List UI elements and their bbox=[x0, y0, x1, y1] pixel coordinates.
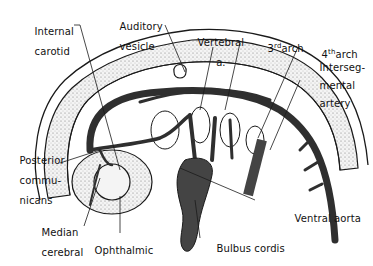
pharyngeal-pouches bbox=[151, 107, 264, 154]
label-line: Interseg- bbox=[320, 62, 366, 73]
label-line: Vertebral bbox=[198, 37, 245, 48]
label-line: Ventral aorta bbox=[295, 213, 361, 224]
arch-branch bbox=[230, 120, 232, 158]
intersegmental-3 bbox=[310, 184, 322, 190]
label-3rd-arch: 3rdarch bbox=[261, 34, 304, 54]
label-line: commu- bbox=[20, 175, 62, 186]
label-line: artery bbox=[320, 98, 351, 109]
label-posterior-communicans: Posterior commu- nicans bbox=[13, 146, 65, 206]
label-bulbus-cordis: Bulbus cordis bbox=[210, 234, 285, 254]
label-internal-carotid: Internal carotid bbox=[28, 17, 74, 57]
label-line: Auditory bbox=[120, 21, 163, 32]
label-auditory-vesicle: Auditory vesicle bbox=[113, 12, 163, 52]
label-line: Posterior bbox=[20, 155, 65, 166]
label-line: Bulbus cordis bbox=[217, 243, 285, 254]
label-line: mental bbox=[320, 80, 356, 91]
label-ventral-aorta: Ventral aorta bbox=[288, 204, 361, 224]
arch-4 bbox=[212, 118, 215, 160]
label-line: carotid bbox=[35, 46, 70, 57]
label-line: Median bbox=[42, 227, 79, 238]
label-line: Internal bbox=[35, 26, 74, 37]
label-line: cerebral bbox=[42, 247, 84, 258]
intersegmental-1 bbox=[300, 140, 310, 150]
label-line: vesicle bbox=[120, 41, 155, 52]
label-median-cerebral: Median cerebral bbox=[35, 218, 83, 258]
label-vertebral-a: Vertebral a. bbox=[191, 28, 244, 68]
bulbus-cordis bbox=[177, 158, 212, 251]
label-word: arch bbox=[281, 43, 303, 54]
label-line: nicans bbox=[20, 195, 53, 206]
label-line: Ophthalmic bbox=[95, 245, 154, 256]
label-line: a. bbox=[216, 57, 226, 68]
intersegmental-2 bbox=[305, 162, 318, 170]
label-intersegmental-artery: Interseg- mental artery bbox=[313, 54, 365, 108]
label-ophthalmic: Ophthalmic bbox=[88, 236, 153, 256]
